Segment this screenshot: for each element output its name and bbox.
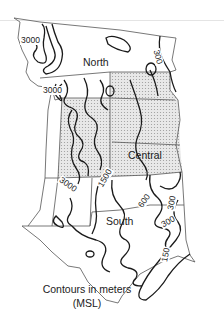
legend-line-1: Contours in meters xyxy=(32,282,142,296)
legend-line-2: (MSL) xyxy=(32,296,142,310)
contour-map xyxy=(0,0,224,326)
contour-label-3000-nw: 3000 xyxy=(20,36,41,45)
central-region xyxy=(58,72,182,178)
region-label-central: Central xyxy=(128,150,162,161)
region-label-south: South xyxy=(106,216,133,227)
legend: Contours in meters (MSL) xyxy=(32,282,142,310)
region-label-north: North xyxy=(83,57,109,68)
contour-label-3000-w: 3000 xyxy=(42,86,63,95)
